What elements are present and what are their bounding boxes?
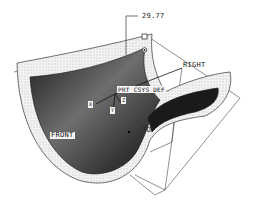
- datum-plane-top-label[interactable]: TOP: [142, 127, 156, 134]
- datum-point-square-marker: [142, 34, 147, 39]
- csys-axis-x-label: X: [88, 101, 93, 108]
- dimension-value-label[interactable]: 29.77: [142, 13, 165, 20]
- cad-model-viewport[interactable]: 29.77 RIGHT PRT_CSYS_DEF X Y Z FRONT TOP: [0, 0, 254, 210]
- datum-plane-front-label[interactable]: FRONT: [50, 132, 75, 139]
- csys-axis-z-label: Z: [121, 97, 126, 104]
- csys-axis-y-label: Y: [110, 107, 115, 114]
- surface-model-graphics[interactable]: [0, 0, 254, 210]
- surface-point-marker: [128, 131, 130, 133]
- datum-plane-right-label[interactable]: RIGHT: [183, 62, 206, 69]
- csys-label[interactable]: PRT_CSYS_DEF: [117, 86, 166, 93]
